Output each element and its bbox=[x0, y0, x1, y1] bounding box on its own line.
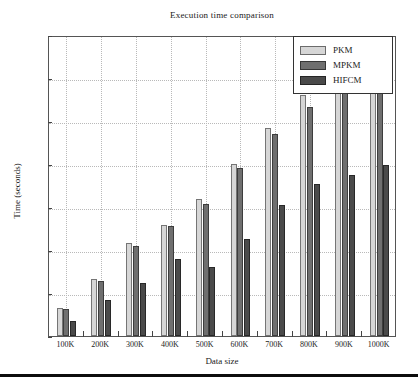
y-tick-mark bbox=[48, 337, 52, 338]
legend-swatch-mpkm bbox=[300, 61, 326, 70]
legend: PKMMPKMHIFCM bbox=[293, 36, 393, 94]
y-tick-mark bbox=[48, 165, 52, 166]
legend-swatch-pkm bbox=[300, 46, 326, 55]
x-tick-label: 800K bbox=[300, 340, 318, 349]
bottom-rule bbox=[0, 374, 418, 377]
bar-hifcm-500k bbox=[209, 267, 215, 336]
bar-mpkm-700k bbox=[272, 134, 278, 336]
bar-pkm-400k bbox=[161, 225, 167, 336]
y-tick-mark bbox=[48, 208, 52, 209]
bar-pkm-500k bbox=[196, 199, 202, 336]
chart-title: Execution time comparison bbox=[48, 10, 396, 20]
y-tick-mark bbox=[48, 251, 52, 252]
x-tick-mark bbox=[83, 331, 84, 337]
x-tick-label: 400K bbox=[161, 340, 179, 349]
x-tick-label: 100K bbox=[57, 340, 75, 349]
legend-label: MPKM bbox=[333, 61, 361, 70]
bar-mpkm-500k bbox=[203, 204, 209, 336]
bar-hifcm-200k bbox=[105, 300, 111, 336]
bar-mpkm-800k bbox=[307, 107, 313, 336]
bar-mpkm-400k bbox=[168, 226, 174, 336]
x-axis-label: Data size bbox=[48, 356, 396, 366]
bar-pkm-100k bbox=[57, 308, 63, 336]
bar-hifcm-700k bbox=[279, 205, 285, 336]
x-tick-mark bbox=[152, 331, 153, 337]
x-tick-mark bbox=[326, 331, 327, 337]
x-tick-label: 200K bbox=[91, 340, 109, 349]
legend-item-hifcm[interactable]: HIFCM bbox=[300, 73, 386, 87]
bar-pkm-300k bbox=[126, 243, 132, 336]
y-tick-mark bbox=[48, 122, 52, 123]
bar-pkm-200k bbox=[91, 279, 97, 336]
x-tick-label: 500K bbox=[196, 340, 214, 349]
chart-figure: Execution time comparison 05101520253035… bbox=[0, 0, 418, 386]
x-tick-label: 700K bbox=[265, 340, 283, 349]
x-tick-mark bbox=[187, 331, 188, 337]
bar-hifcm-800k bbox=[314, 184, 320, 336]
bar-mpkm-300k bbox=[133, 246, 139, 336]
legend-label: HIFCM bbox=[333, 76, 362, 85]
bar-hifcm-100k bbox=[70, 321, 76, 336]
y-axis-label: Time (seconds) bbox=[12, 136, 22, 246]
bar-hifcm-600k bbox=[244, 239, 250, 336]
x-tick-label: 300K bbox=[126, 340, 144, 349]
bar-pkm-600k bbox=[231, 164, 237, 336]
bar-pkm-700k bbox=[265, 128, 271, 336]
bar-hifcm-1000k bbox=[383, 165, 389, 336]
legend-item-mpkm[interactable]: MPKM bbox=[300, 58, 386, 72]
bar-pkm-900k bbox=[335, 61, 341, 336]
legend-label: PKM bbox=[333, 46, 353, 55]
x-tick-label: 600K bbox=[231, 340, 249, 349]
x-tick-mark bbox=[292, 331, 293, 337]
bar-mpkm-200k bbox=[98, 281, 104, 336]
x-tick-label: 1000K bbox=[368, 340, 390, 349]
x-tick-mark bbox=[361, 331, 362, 337]
bar-pkm-800k bbox=[300, 95, 306, 336]
bar-hifcm-300k bbox=[140, 283, 146, 336]
legend-item-pkm[interactable]: PKM bbox=[300, 43, 386, 57]
bar-mpkm-900k bbox=[342, 69, 348, 336]
y-tick-mark bbox=[48, 294, 52, 295]
x-tick-label: 900K bbox=[335, 340, 353, 349]
bar-hifcm-900k bbox=[349, 175, 355, 336]
gridline-vertical bbox=[66, 37, 67, 336]
legend-swatch-hifcm bbox=[300, 76, 326, 85]
bar-mpkm-100k bbox=[63, 309, 69, 336]
y-tick-mark bbox=[48, 36, 52, 37]
bar-hifcm-400k bbox=[175, 259, 181, 336]
x-tick-mark bbox=[257, 331, 258, 337]
x-tick-mark bbox=[118, 331, 119, 337]
bar-mpkm-600k bbox=[237, 168, 243, 336]
y-tick-mark bbox=[48, 79, 52, 80]
bar-mpkm-1000k bbox=[377, 57, 383, 337]
x-tick-mark bbox=[222, 331, 223, 337]
